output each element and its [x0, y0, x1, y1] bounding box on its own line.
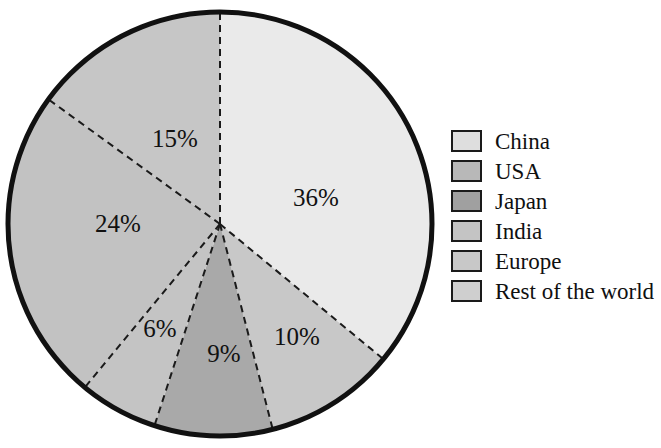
slice-data-label-china: 36% — [293, 184, 339, 211]
legend-item-china: China — [451, 126, 659, 156]
slice-data-label-europe: 24% — [95, 210, 141, 237]
chart-legend: ChinaUSAJapanIndiaEuropeRest of the worl… — [451, 126, 659, 306]
legend-item-europe: Europe — [451, 246, 659, 276]
legend-swatch-icon — [451, 130, 482, 152]
slice-data-label-usa: 10% — [274, 323, 320, 350]
legend-swatch-icon — [451, 220, 482, 242]
pie-chart-figure: 36%10%9%6%24%15% ChinaUSAJapanIndiaEurop… — [0, 0, 661, 448]
legend-item-label: USA — [495, 160, 541, 183]
legend-item-label: China — [495, 130, 550, 153]
slice-data-label-india: 6% — [143, 315, 176, 342]
legend-item-usa: USA — [451, 156, 659, 186]
legend-item-label: Europe — [495, 250, 561, 273]
legend-item-rest-of-the-world: Rest of the world — [451, 276, 659, 306]
legend-swatch-icon — [451, 160, 482, 182]
legend-item-japan: Japan — [451, 186, 659, 216]
slice-data-label-rest-of-the-world: 15% — [152, 125, 198, 152]
slice-data-label-japan: 9% — [207, 340, 240, 367]
legend-item-india: India — [451, 216, 659, 246]
legend-item-label: Rest of the world — [495, 280, 654, 303]
legend-item-label: India — [495, 220, 542, 243]
legend-item-label: Japan — [495, 190, 547, 213]
legend-swatch-icon — [451, 250, 482, 272]
legend-swatch-icon — [451, 280, 482, 302]
pie-chart-svg: 36%10%9%6%24%15% — [0, 0, 448, 448]
legend-swatch-icon — [451, 190, 482, 212]
